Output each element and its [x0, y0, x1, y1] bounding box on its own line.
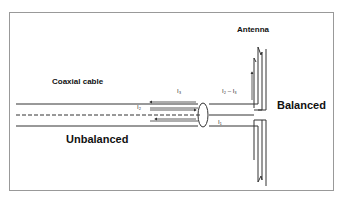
antenna-label: Antenna	[237, 25, 269, 34]
coaxial-cable-label: Coaxial cable	[52, 77, 103, 86]
antenna-upper-outer	[258, 47, 262, 110]
unbalanced-label: Unbalanced	[66, 133, 128, 145]
balanced-label: Balanced	[277, 99, 326, 111]
antenna-lower-outer	[258, 120, 262, 182]
antenna-upper-element	[254, 58, 256, 108]
i1-label: I₁	[218, 119, 222, 125]
i2-label: I₂	[137, 104, 141, 110]
i2-minus-i3-label: I₂ – I₃	[222, 88, 237, 94]
i3-label: I₃	[177, 88, 181, 94]
